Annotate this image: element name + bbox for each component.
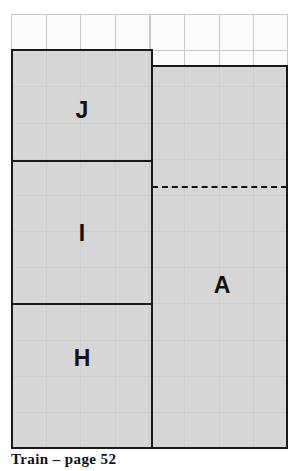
piece-label-I: I [79, 222, 85, 245]
piece-label-H: H [74, 347, 91, 370]
piece-H-fill [11, 304, 152, 448]
assembly-right-edge [286, 65, 288, 448]
piece-I-bottom-edge [11, 303, 153, 305]
piece-divider-vertical [151, 49, 153, 448]
piece-label-J: J [76, 99, 89, 122]
piece-A-fill [152, 66, 288, 448]
piece-J-top-edge [11, 49, 153, 51]
figure-canvas: J I H A Train – page 52 [0, 0, 299, 471]
piece-label-A: A [214, 274, 231, 297]
piece-J-bottom-edge [11, 160, 153, 162]
piece-A-dashed-divider [152, 186, 287, 188]
piece-A-top-edge [151, 65, 288, 67]
assembly-bottom-edge [11, 447, 288, 449]
figure-caption: Train – page 52 [11, 451, 116, 468]
assembly-left-edge [11, 49, 13, 448]
